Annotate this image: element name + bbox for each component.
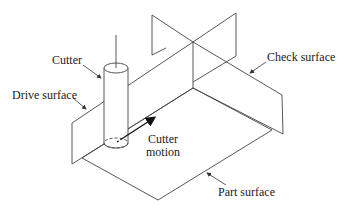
diagram-drawing [0, 0, 344, 212]
cutter-cylinder [104, 35, 128, 148]
drive-surface-label: Drive surface [12, 89, 77, 102]
part-surface-label: Part surface [218, 186, 275, 199]
cutter-motion-label-line2: motion [143, 146, 183, 159]
cutter-leader [83, 65, 101, 78]
machining-surfaces-diagram: Cutter Drive surface Check surface Cutte… [0, 0, 344, 212]
check-surface-label: Check surface [267, 51, 335, 64]
cutter-label: Cutter [52, 54, 82, 67]
check-surface-leader [250, 62, 266, 73]
cutter-motion-label: Cutter motion [143, 133, 183, 159]
part-surface-leader [207, 173, 226, 185]
